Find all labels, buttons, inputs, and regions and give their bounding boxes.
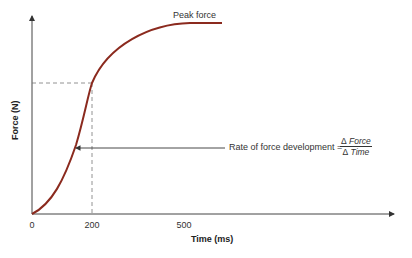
rfd-label: Rate of force development = — [229, 142, 342, 152]
delta-symbol: Δ — [341, 136, 347, 146]
force-time-chart — [0, 0, 412, 258]
formula-numerator: Force — [349, 136, 371, 146]
y-axis-title: Force (N) — [10, 100, 20, 140]
formula-denominator: Time — [351, 147, 370, 157]
rfd-formula: Δ Force Δ Time — [340, 136, 372, 157]
force-curve — [32, 23, 222, 214]
delta-symbol: Δ — [342, 147, 348, 157]
x-tick-500: 500 — [176, 220, 191, 230]
x-tick-0: 0 — [29, 220, 34, 230]
x-axis-title: Time (ms) — [191, 234, 233, 244]
peak-force-label: Peak force — [173, 10, 216, 20]
x-tick-200: 200 — [84, 220, 99, 230]
